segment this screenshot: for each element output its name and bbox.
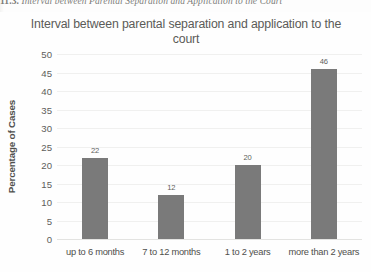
y-axis-tick: 35 [41,104,52,115]
y-axis-tick: 45 [41,67,52,78]
y-axis-tick: 40 [41,86,52,97]
y-axis-tick: 15 [41,178,52,189]
bar[interactable] [158,195,184,239]
figure-page: 11.3. Interval between Parental Separati… [0,0,371,272]
y-axis-tick: 50 [41,49,52,60]
y-axis-tick: 5 [47,215,52,226]
bar-value-label: 22 [91,146,99,155]
bar[interactable] [82,158,108,239]
figure-caption-number: 11.3. [0,0,19,6]
y-axis-label: Percentage of Cases [6,54,20,239]
y-axis-tick: 30 [41,123,52,134]
y-axis-tick: 10 [41,197,52,208]
bar-group: 46more than 2 years [286,54,362,239]
bar-chart: Interval between parental separation and… [0,12,371,272]
x-axis-tick: 7 to 12 months [142,247,200,257]
bar-group: 201 to 2 years [210,54,286,239]
figure-caption: 11.3. Interval between Parental Separati… [0,0,371,9]
bar-value-label: 12 [167,183,175,192]
y-axis-tick: 20 [41,160,52,171]
bar-group: 22up to 6 months [57,54,133,239]
bar-group: 127 to 12 months [133,54,209,239]
y-axis-tick: 25 [41,141,52,152]
bar-value-label: 46 [320,57,328,66]
bar[interactable] [235,165,261,239]
figure-caption-text: Interval between Parental Separation and… [21,0,282,6]
x-axis-tick: up to 6 months [66,247,124,257]
bar-value-label: 20 [243,153,251,162]
x-axis-tick: 1 to 2 years [225,247,271,257]
plot-area: 5045403530252015105022up to 6 months127 … [57,54,362,239]
bar[interactable] [311,69,337,239]
y-axis-tick: 0 [47,234,52,245]
gridline [57,239,362,240]
chart-title: Interval between parental separation and… [26,17,346,47]
x-axis-tick: more than 2 years [289,247,360,257]
